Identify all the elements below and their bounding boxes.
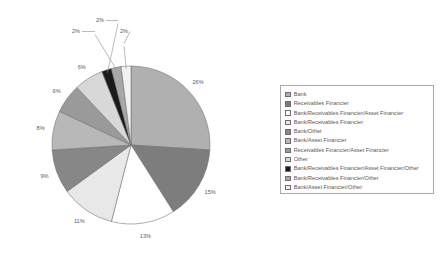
- pie-leader-line: [95, 35, 117, 71]
- pie-slice-label: 26%: [192, 79, 203, 85]
- legend-item[interactable]: Bank/Receivables Financier: [285, 118, 433, 127]
- pie-slice-label: 13%: [140, 233, 151, 239]
- legend-item-label: Bank/Receivables Financier/Asset Financi…: [294, 109, 403, 118]
- legend-item[interactable]: Bank/Asset Financier/Other: [285, 183, 433, 192]
- pie-slice-label: 6%: [53, 88, 61, 94]
- legend-swatch-icon: [285, 120, 291, 126]
- legend-item-label: Bank/Receivables Financier/Other: [294, 174, 379, 183]
- pie-leader-line: [108, 24, 118, 73]
- pie-slice-label: 6%: [78, 64, 86, 70]
- legend-swatch-icon: [285, 166, 291, 172]
- legend-item-label: Bank/Other: [294, 127, 322, 136]
- legend-item[interactable]: Bank: [285, 90, 433, 99]
- legend-swatch-icon: [285, 129, 291, 135]
- pie-slice-label: 8%: [37, 125, 45, 131]
- legend-item-label: Other: [294, 155, 308, 164]
- legend-swatch-icon: [285, 148, 291, 154]
- legend-swatch-icon: [285, 176, 291, 182]
- pie-slice-label: 11%: [74, 218, 85, 224]
- pie-slice-label: 2%: [72, 28, 80, 34]
- legend-item-label: Bank/Receivables Financier/Asset Financi…: [294, 164, 419, 173]
- legend-swatch-icon: [285, 92, 291, 98]
- legend-swatch-icon: [285, 110, 291, 116]
- legend-swatch-icon: [285, 138, 291, 144]
- chart-legend: BankReceivables FinancierBank/Receivable…: [280, 85, 434, 194]
- legend-item[interactable]: Other: [285, 155, 433, 164]
- legend-item-label: Receivables Financier: [294, 99, 349, 108]
- pie-slice-label: 15%: [205, 189, 216, 195]
- legend-swatch-icon: [285, 185, 291, 191]
- legend-item[interactable]: Receivables Financier: [285, 99, 433, 108]
- legend-item[interactable]: Receivables Financier/Asset Financier: [285, 146, 433, 155]
- legend-item[interactable]: Bank/Other: [285, 127, 433, 136]
- pie-slice-label: 2%: [120, 28, 128, 34]
- legend-item-label: Bank/Receivables Financier: [294, 118, 363, 127]
- legend-item-label: Bank/Asset Financier: [294, 136, 347, 145]
- legend-swatch-icon: [285, 157, 291, 163]
- legend-swatch-icon: [285, 101, 291, 107]
- pie-slice-label: 2%: [96, 17, 104, 23]
- legend-item-label: Bank: [294, 90, 307, 99]
- legend-item-label: Receivables Financier/Asset Financier: [294, 146, 389, 155]
- legend-item[interactable]: Bank/Asset Financier: [285, 136, 433, 145]
- pie-chart-figure: 26%15%13%11%9%8%6%6%2%2%2% BankReceivabl…: [0, 0, 445, 271]
- pie-slice-label: 9%: [40, 173, 48, 179]
- legend-item[interactable]: Bank/Receivables Financier/Other: [285, 174, 433, 183]
- pie-slices: [52, 66, 210, 224]
- legend-item[interactable]: Bank/Receivables Financier/Asset Financi…: [285, 164, 433, 173]
- pie-leader-line: [124, 47, 126, 70]
- legend-item-label: Bank/Asset Financier/Other: [294, 183, 362, 192]
- legend-item[interactable]: Bank/Receivables Financier/Asset Financi…: [285, 109, 433, 118]
